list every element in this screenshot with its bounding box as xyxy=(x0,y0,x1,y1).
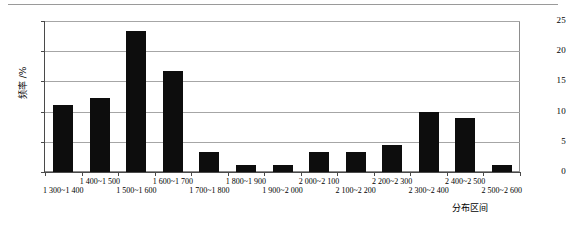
x-tick-mark xyxy=(45,172,46,176)
bar xyxy=(273,165,293,172)
bar xyxy=(90,98,110,172)
bars-group xyxy=(45,21,520,172)
bar xyxy=(455,118,475,172)
bar xyxy=(309,152,329,172)
bar xyxy=(53,105,73,172)
x-tick-mark xyxy=(520,172,521,176)
x-tick-mark xyxy=(410,172,411,176)
bar xyxy=(382,145,402,172)
x-tick-mark xyxy=(374,172,375,176)
x-tick-mark xyxy=(155,172,156,176)
x-tick-mark xyxy=(483,172,484,176)
top-divider-rule xyxy=(8,4,558,5)
x-tick-label: 2 500~2 600 xyxy=(475,186,529,195)
y-tick-label-25: 25 xyxy=(528,16,566,25)
x-tick-label: 1 400~1 500 xyxy=(73,177,127,186)
bar xyxy=(492,165,512,172)
y-tick-label-0: 0 xyxy=(528,167,566,176)
bar xyxy=(199,152,219,172)
x-tick-label: 1 300~1 400 xyxy=(36,186,90,195)
x-tick-label: 2 100~2 200 xyxy=(329,186,383,195)
x-tick-label: 1 600~1 700 xyxy=(146,177,200,186)
y-tick-label-10: 10 xyxy=(528,107,566,116)
x-tick-mark xyxy=(82,172,83,176)
y-tick-label-5: 5 xyxy=(528,137,566,146)
x-axis-line xyxy=(44,172,521,173)
y-axis-title: 频率 /% xyxy=(18,53,28,113)
y-tick-label-15: 15 xyxy=(528,76,566,85)
x-tick-label: 2 000~2 100 xyxy=(292,177,346,186)
x-tick-mark xyxy=(447,172,448,176)
x-tick-mark xyxy=(264,172,265,176)
x-tick-mark xyxy=(118,172,119,176)
x-axis-title: 分布区间 xyxy=(452,203,488,213)
bar xyxy=(163,71,183,172)
x-tick-label: 2 300~2 400 xyxy=(402,186,456,195)
x-tick-label: 1 700~1 800 xyxy=(182,186,236,195)
bar xyxy=(236,165,256,172)
bar xyxy=(346,152,366,172)
x-tick-label: 1 900~2 000 xyxy=(256,186,310,195)
bar xyxy=(126,31,146,172)
x-tick-mark xyxy=(191,172,192,176)
x-tick-label: 2 200~2 300 xyxy=(365,177,419,186)
bar xyxy=(419,112,439,172)
x-tick-mark xyxy=(228,172,229,176)
x-tick-label: 1 500~1 600 xyxy=(109,186,163,195)
x-tick-label: 2 400~2 500 xyxy=(438,177,492,186)
histogram-figure: 0510152025 频率 /% 1 300~1 4001 400~1 5001… xyxy=(0,0,566,225)
x-tick-label: 1 800~1 900 xyxy=(219,177,273,186)
x-tick-mark xyxy=(337,172,338,176)
x-tick-mark xyxy=(301,172,302,176)
y-tick-label-20: 20 xyxy=(528,46,566,55)
